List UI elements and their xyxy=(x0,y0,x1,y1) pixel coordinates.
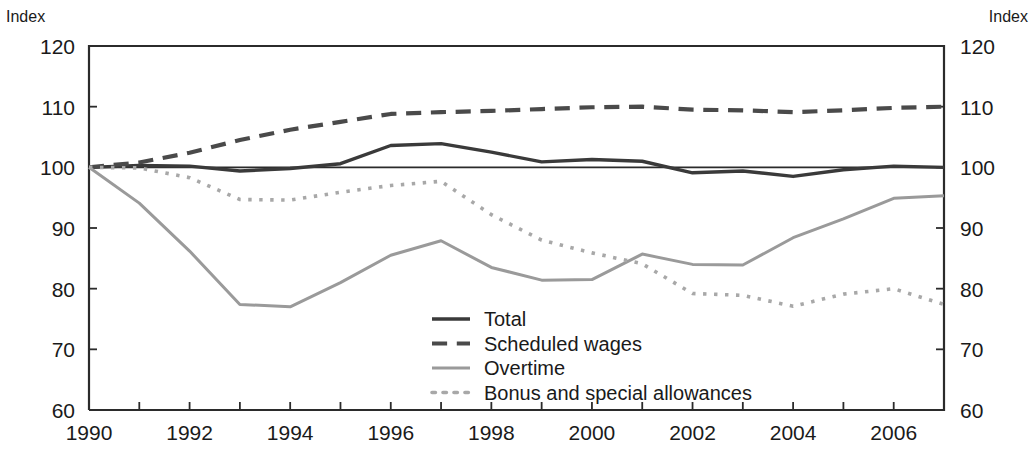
x-axis-label: 1992 xyxy=(166,421,213,444)
y-axis-label-left: 90 xyxy=(52,217,75,240)
wage-index-line-chart: 6060707080809090100100110110120120199019… xyxy=(0,0,1034,454)
x-axis-label: 1996 xyxy=(367,421,414,444)
series-line-bonus-and-special-allowances xyxy=(89,167,944,306)
x-axis-label: 1994 xyxy=(267,421,314,444)
y-axis-label-right: 70 xyxy=(960,338,983,361)
legend-label-scheduled-wages: Scheduled wages xyxy=(484,333,642,355)
legend-label-overtime: Overtime xyxy=(484,357,565,379)
chart-container: 6060707080809090100100110110120120199019… xyxy=(0,0,1034,454)
y-axis-label-left: 60 xyxy=(52,399,75,422)
series-line-total xyxy=(89,144,944,177)
y-axis-label-left: 80 xyxy=(52,278,75,301)
x-axis-label: 1998 xyxy=(468,421,515,444)
x-axis-label: 2006 xyxy=(870,421,917,444)
y-axis-label-right: 100 xyxy=(960,156,995,179)
x-axis-label: 2002 xyxy=(669,421,716,444)
x-axis-label: 2004 xyxy=(770,421,817,444)
y-axis-label-right: 80 xyxy=(960,278,983,301)
series-lines xyxy=(89,107,944,307)
legend-label-bonus-and-special-allowances: Bonus and special allowances xyxy=(484,382,752,404)
y-axis-unit-right: Index xyxy=(989,8,1028,25)
y-axis-label-left: 100 xyxy=(40,156,75,179)
legend-label-total: Total xyxy=(484,308,526,330)
series-line-overtime xyxy=(89,167,944,307)
y-axis-label-right: 60 xyxy=(960,399,983,422)
y-axis-label-left: 110 xyxy=(42,96,75,119)
y-axis-unit-left: Index xyxy=(6,8,45,25)
y-axis-label-left: 120 xyxy=(40,35,75,58)
x-axis-label: 1990 xyxy=(66,421,113,444)
chart-legend: TotalScheduled wagesOvertimeBonus and sp… xyxy=(432,308,752,404)
y-axis-label-right: 90 xyxy=(960,217,983,240)
y-axis-label-right: 120 xyxy=(960,35,995,58)
x-axis-label: 2000 xyxy=(569,421,616,444)
y-axis-label-right: 110 xyxy=(960,96,993,119)
y-axis-label-left: 70 xyxy=(52,338,75,361)
